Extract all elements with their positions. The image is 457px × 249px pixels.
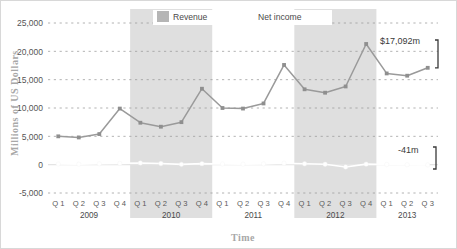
data-point-net-income (405, 163, 409, 167)
y-axis-tick-label: 10,000 (17, 103, 43, 113)
data-point-net-income (302, 162, 306, 166)
data-point-revenue (344, 85, 348, 89)
revenue-end-annotation-label: $17,092m (380, 36, 420, 46)
data-point-revenue (97, 132, 101, 136)
year-shaded-band-2010 (130, 9, 212, 218)
data-point-net-income (282, 161, 286, 165)
data-point-net-income (138, 161, 142, 165)
y-axis-tick-label: 15,000 (17, 75, 43, 85)
x-axis-tick-label: Q 2 (237, 199, 249, 208)
x-axis-year-label-2012: 2012 (326, 211, 345, 220)
x-axis-tick-label: Q 3 (422, 199, 434, 208)
x-axis-tick-label: Q 1 (298, 199, 310, 208)
x-axis-title: Time (231, 232, 255, 243)
x-axis-tick-label: Q 3 (257, 199, 269, 208)
x-axis-year-label-2010: 2010 (162, 211, 181, 220)
data-point-revenue (221, 106, 225, 110)
data-point-net-income (56, 162, 60, 166)
y-axis-title: Millions of US Dollars (9, 50, 20, 156)
y-axis-tick-label: -5,000 (19, 188, 43, 198)
data-point-revenue (118, 107, 122, 111)
data-point-net-income (426, 163, 430, 167)
x-axis-tick-label: Q 2 (319, 199, 331, 208)
data-point-revenue (262, 102, 266, 106)
data-point-net-income (118, 161, 122, 165)
data-point-net-income (261, 162, 265, 166)
data-point-revenue (200, 87, 204, 91)
data-point-net-income (364, 162, 368, 166)
x-axis-tick-label: Q 4 (114, 199, 126, 208)
data-point-net-income (77, 162, 81, 166)
data-point-revenue (180, 120, 184, 124)
x-axis-tick-label: Q 2 (401, 199, 413, 208)
x-axis-tick-label: Q 1 (381, 199, 393, 208)
x-axis-tick-label: Q 3 (93, 199, 105, 208)
data-point-revenue (323, 91, 327, 95)
data-point-revenue (241, 107, 245, 111)
data-point-net-income (241, 162, 245, 166)
data-point-revenue (159, 125, 163, 129)
y-axis-tick-label: 25,000 (17, 18, 43, 28)
x-axis-tick-label: Q 3 (340, 199, 352, 208)
x-axis-tick-label: Q 4 (278, 199, 290, 208)
chart-plot-area: 25,00020,00015,00010,0005,0000-5,000Mill… (1, 1, 457, 249)
data-point-revenue (405, 74, 409, 78)
y-axis-tick-label: 5,000 (22, 132, 44, 142)
data-point-revenue (426, 66, 430, 70)
data-point-revenue (303, 87, 307, 91)
data-point-revenue (138, 121, 142, 125)
net-income-end-annotation-bracket (433, 147, 436, 169)
data-point-net-income (220, 162, 224, 166)
x-axis-year-label-2009: 2009 (80, 211, 99, 220)
data-point-net-income (384, 162, 388, 166)
x-axis-tick-label: Q 2 (73, 199, 85, 208)
data-point-revenue (56, 134, 60, 138)
x-axis-tick-label: Q 1 (52, 199, 64, 208)
legend-label-revenue: Revenue (173, 12, 208, 22)
x-axis-tick-label: Q 4 (196, 199, 208, 208)
data-point-revenue (282, 63, 286, 67)
legend-swatch-revenue (157, 11, 169, 22)
data-point-revenue (77, 136, 81, 140)
net-income-end-annotation-label: -41m (398, 145, 419, 155)
x-axis-tick-label: Q 4 (360, 199, 372, 208)
data-point-net-income (200, 161, 204, 165)
data-point-revenue (385, 72, 389, 76)
x-axis-tick-label: Q 2 (155, 199, 167, 208)
year-shaded-band-2012 (294, 9, 376, 218)
data-point-net-income (343, 165, 347, 169)
x-axis-year-label-2013: 2013 (398, 211, 417, 220)
data-point-net-income (323, 162, 327, 166)
x-axis-tick-label: Q 1 (216, 199, 228, 208)
data-point-net-income (179, 162, 183, 166)
data-point-revenue (364, 42, 368, 46)
revenue-end-annotation-bracket (435, 40, 438, 68)
data-point-net-income (97, 162, 101, 166)
x-axis-tick-label: Q 3 (175, 199, 187, 208)
x-axis-year-label-2011: 2011 (244, 211, 262, 220)
chart-frame: 25,00020,00015,00010,0005,0000-5,000Mill… (0, 0, 457, 249)
legend-label-net-income: Net income (258, 12, 302, 22)
y-axis-tick-label: 20,000 (17, 47, 43, 57)
data-point-net-income (159, 161, 163, 165)
x-axis-tick-label: Q 1 (134, 199, 146, 208)
y-axis-tick-label: 0 (38, 160, 43, 170)
